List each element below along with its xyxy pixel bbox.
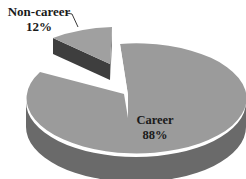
career-name: Career xyxy=(130,113,180,128)
non-career-percent: 12% xyxy=(4,19,74,34)
career-label: Career 88% xyxy=(130,113,180,143)
non-career-label: Non-career 12% xyxy=(4,4,74,34)
pie-chart: Non-career 12% Career 88% xyxy=(0,0,246,179)
non-career-name: Non-career xyxy=(4,4,74,19)
career-percent: 88% xyxy=(130,128,180,143)
